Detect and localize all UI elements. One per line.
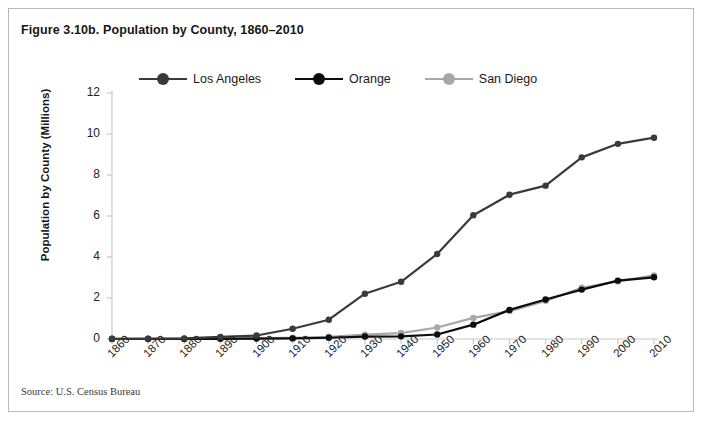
data-point-los-angeles-1930: [362, 290, 368, 296]
data-point-los-angeles-1910: [289, 326, 295, 332]
figure-frame: Figure 3.10b. Population by County, 1860…: [8, 8, 694, 412]
data-point-los-angeles-1900: [253, 332, 259, 338]
data-point-orange-1940: [398, 333, 404, 339]
data-point-los-angeles-1990: [579, 154, 585, 160]
data-point-san-diego-1950: [434, 324, 440, 330]
data-point-los-angeles-1970: [506, 191, 512, 197]
chart-plot-area: Population by County (Millions) 02468101…: [9, 9, 695, 413]
data-point-los-angeles-1960: [470, 212, 476, 218]
y-tick-6: 6: [70, 208, 100, 222]
data-point-orange-1980: [542, 296, 548, 302]
data-point-los-angeles-2010: [651, 134, 657, 140]
data-point-orange-1930: [362, 333, 368, 339]
data-point-orange-1990: [579, 286, 585, 292]
data-point-orange-1970: [506, 307, 512, 313]
series-line-san-diego: [112, 275, 654, 338]
data-point-orange-1950: [434, 331, 440, 337]
data-point-los-angeles-1980: [542, 182, 548, 188]
data-point-los-angeles-1940: [398, 279, 404, 285]
y-tick-2: 2: [70, 290, 100, 304]
data-point-orange-2000: [615, 277, 621, 283]
series-line-orange: [112, 277, 654, 339]
data-point-los-angeles-1950: [434, 251, 440, 257]
source-note: Source: U.S. Census Bureau: [21, 386, 140, 397]
y-tick-8: 8: [70, 167, 100, 181]
y-axis-title: Population by County (Millions): [39, 75, 51, 275]
data-point-san-diego-1960: [470, 315, 476, 321]
y-tick-12: 12: [70, 85, 100, 99]
series-line-los-angeles: [112, 138, 654, 339]
y-tick-10: 10: [70, 126, 100, 140]
y-tick-4: 4: [70, 249, 100, 263]
data-point-orange-2010: [651, 274, 657, 280]
data-point-orange-1960: [470, 321, 476, 327]
data-point-los-angeles-1890: [217, 334, 223, 340]
y-tick-0: 0: [70, 331, 100, 345]
data-point-los-angeles-2000: [615, 141, 621, 147]
data-point-los-angeles-1920: [326, 317, 332, 323]
